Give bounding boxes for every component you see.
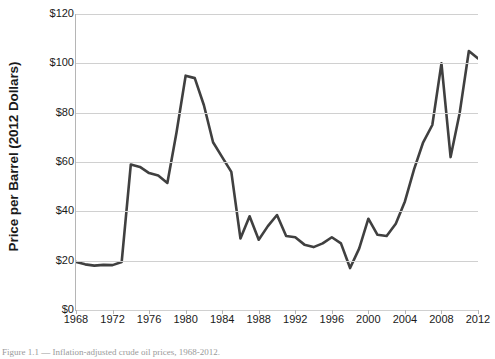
price-line-path [76,51,478,268]
x-axis-tick-label: 2012 [458,313,495,325]
x-axis-tick-mark [332,310,333,314]
gridline [76,310,478,311]
y-axis-title: Price per Barrel (2012 Dollars) [0,0,28,312]
y-axis-title-text: Price per Barrel (2012 Dollars) [7,61,22,251]
plot-area [76,14,478,310]
x-axis-tick-mark [76,310,77,314]
x-axis-tick-label: 1992 [275,313,315,325]
y-axis-tick-label: $80 [28,107,74,118]
x-axis-tick-label: 1996 [312,313,352,325]
x-axis-tick-mark [113,310,114,314]
x-axis-tick-mark [441,310,442,314]
x-axis-tick-label: 1968 [56,313,96,325]
gridline [76,261,478,262]
y-axis-tick-label: $40 [28,205,74,216]
x-axis-tick-label: 2000 [348,313,388,325]
y-axis-tick-label: $120 [28,8,74,19]
x-axis-tick-mark [295,310,296,314]
x-axis-tick-label: 2004 [385,313,425,325]
figure-caption: Figure 1.1 — Inflation-adjusted crude oi… [2,347,488,358]
x-axis-tick-mark [149,310,150,314]
gridline [76,162,478,163]
x-axis-tick-label: 1980 [166,313,206,325]
x-axis-tick-mark [186,310,187,314]
x-axis-tick-label: 1988 [239,313,279,325]
x-axis-tick-mark [478,310,479,314]
y-axis-tick-label: $60 [28,156,74,167]
gridline [76,113,478,114]
x-axis-tick-label: 1984 [202,313,242,325]
x-axis-tick-label: 1976 [129,313,169,325]
gridline [76,63,478,64]
x-axis-tick-label: 2008 [421,313,461,325]
gridline [76,211,478,212]
gridline [76,14,478,15]
x-axis-tick-label: 1972 [93,313,133,325]
y-axis-ticks: $0$20$40$60$80$100$120 [26,0,74,359]
x-axis-tick-mark [259,310,260,314]
x-axis-tick-mark [405,310,406,314]
x-axis-tick-mark [368,310,369,314]
x-axis-tick-mark [222,310,223,314]
x-axis-ticks: 1968197219761980198419881992199620002004… [0,313,490,331]
y-axis-tick-label: $100 [28,57,74,68]
y-axis-tick-label: $20 [28,255,74,266]
